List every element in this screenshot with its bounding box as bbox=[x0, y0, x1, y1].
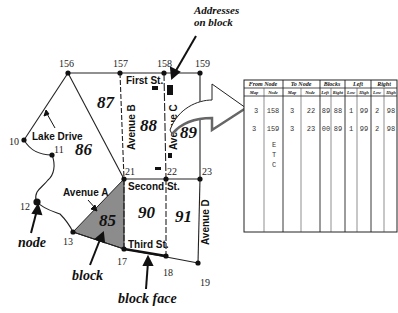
table-col-left-low: Low bbox=[346, 90, 356, 95]
table-etc-e: E bbox=[272, 141, 276, 149]
svg-text:22: 22 bbox=[307, 107, 315, 115]
svg-text:159: 159 bbox=[267, 125, 280, 133]
svg-text:00: 00 bbox=[322, 125, 330, 133]
svg-text:98: 98 bbox=[387, 107, 395, 115]
table-etc-c: C bbox=[272, 161, 276, 169]
svg-text:89: 89 bbox=[322, 107, 330, 115]
svg-text:99: 99 bbox=[360, 107, 368, 115]
table-group-blocks: Blocks bbox=[323, 81, 341, 87]
node-label-159: 159 bbox=[195, 58, 210, 69]
svg-text:2: 2 bbox=[375, 107, 379, 115]
node-label-12: 12 bbox=[20, 201, 30, 212]
node-label-18: 18 bbox=[163, 267, 173, 278]
svg-text:3: 3 bbox=[252, 125, 256, 133]
table-col-from-node: Node bbox=[267, 90, 278, 95]
callout-node-arrow bbox=[31, 205, 41, 233]
svg-text:3: 3 bbox=[290, 107, 294, 115]
table-group-left: Left bbox=[352, 81, 363, 87]
svg-text:99: 99 bbox=[360, 125, 368, 133]
svg-text:3: 3 bbox=[254, 107, 258, 115]
svg-text:1: 1 bbox=[349, 125, 353, 133]
block-label-88: 88 bbox=[140, 116, 158, 135]
street-label-third: Third St. bbox=[128, 239, 169, 250]
callout-node: node bbox=[18, 235, 46, 250]
node-label-13: 13 bbox=[63, 236, 73, 247]
node-attribute-table: From Node To Node Blocks Left Right Map … bbox=[244, 80, 397, 232]
callout-block-face-arrow bbox=[144, 257, 152, 289]
table-row: 3 158 3 22 89 88 1 99 2 98 bbox=[254, 107, 395, 115]
callout-block: block bbox=[72, 268, 103, 283]
node-label-10: 10 bbox=[9, 136, 19, 147]
table-col-blocks-right: Right bbox=[333, 90, 344, 95]
node-label-19: 19 bbox=[200, 277, 210, 288]
table-col-right-high: High bbox=[385, 90, 396, 95]
node-label-158: 158 bbox=[157, 58, 172, 69]
table-col-to-map: Map bbox=[287, 90, 297, 95]
table-group-right: Right bbox=[376, 81, 391, 87]
node-label-17: 17 bbox=[117, 256, 127, 267]
block-label-85: 85 bbox=[99, 211, 117, 230]
block-face-segment bbox=[124, 249, 166, 256]
node-label-22: 22 bbox=[167, 166, 177, 177]
block-label-91: 91 bbox=[175, 207, 192, 226]
callout-addresses-line1: Addresses bbox=[193, 4, 239, 16]
table-col-left-high: High bbox=[358, 90, 369, 95]
street-label-avenue-a: Avenue A bbox=[63, 187, 108, 198]
svg-text:89: 89 bbox=[334, 125, 342, 133]
street-label-avenue-b: Avenue B bbox=[126, 104, 137, 150]
node-label-11: 11 bbox=[54, 144, 64, 155]
table-group-to-node: To Node bbox=[291, 81, 312, 87]
table-col-from-map: Map bbox=[249, 90, 259, 95]
callout-block-face: block face bbox=[118, 291, 177, 306]
table-col-blocks-left: Left bbox=[320, 90, 329, 95]
table-col-to-node: Node bbox=[304, 90, 315, 95]
svg-text:1: 1 bbox=[349, 107, 353, 115]
street-label-second: Second St. bbox=[128, 181, 180, 192]
street-network-diagram: 156 157 158 159 10 11 12 13 17 18 19 21 … bbox=[0, 0, 398, 313]
block-label-86: 86 bbox=[75, 140, 93, 159]
callout-addresses-arrow bbox=[171, 36, 196, 78]
callout-addresses-line2: on block bbox=[194, 16, 233, 28]
svg-text:3: 3 bbox=[290, 125, 294, 133]
svg-text:98: 98 bbox=[387, 125, 395, 133]
table-col-right-low: Low bbox=[372, 90, 382, 95]
node-label-157: 157 bbox=[113, 58, 128, 69]
table-etc-t: T bbox=[272, 151, 276, 159]
node-label-23: 23 bbox=[202, 166, 212, 177]
node-label-156: 156 bbox=[59, 58, 74, 69]
svg-text:158: 158 bbox=[267, 107, 280, 115]
svg-text:88: 88 bbox=[334, 107, 342, 115]
street-label-avenue-d: Avenue D bbox=[200, 199, 211, 245]
svg-text:23: 23 bbox=[307, 125, 315, 133]
table-group-from-node: From Node bbox=[249, 81, 278, 87]
block-label-90: 90 bbox=[138, 203, 156, 222]
node-label-21: 21 bbox=[125, 166, 135, 177]
block-label-87: 87 bbox=[97, 93, 116, 112]
svg-text:2: 2 bbox=[375, 125, 379, 133]
street-label-first: First St. bbox=[126, 75, 163, 86]
